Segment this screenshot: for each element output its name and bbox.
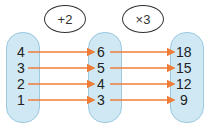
input-value: 1 — [17, 92, 25, 108]
input-value: 3 — [17, 60, 25, 76]
middle-value: 3 — [97, 92, 105, 108]
middle-value: 5 — [97, 60, 105, 76]
output-value: 15 — [176, 60, 192, 76]
middle-value: 4 — [97, 76, 105, 92]
middle-value: 6 — [97, 44, 105, 60]
output-value: 12 — [176, 76, 192, 92]
output-value: 9 — [180, 92, 188, 108]
input-value: 2 — [17, 76, 25, 92]
input-value: 4 — [17, 44, 25, 60]
output-value: 18 — [176, 44, 192, 60]
